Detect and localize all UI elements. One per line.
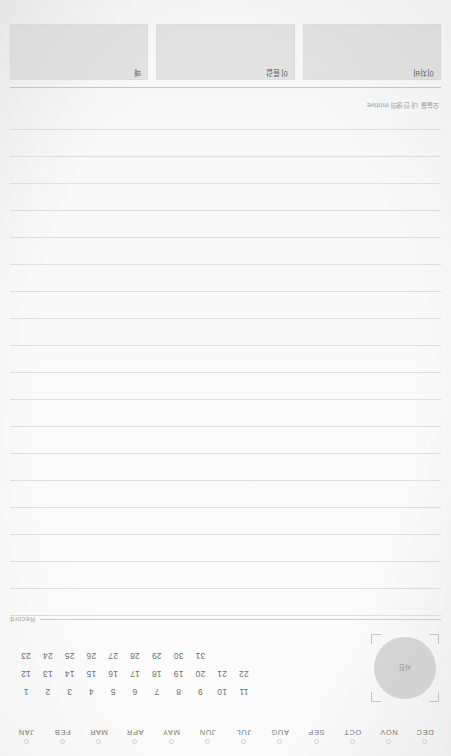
month-item-sep[interactable]: SEP bbox=[298, 729, 334, 745]
month-label: OCT bbox=[344, 729, 362, 737]
day-number[interactable]: 24 bbox=[37, 652, 59, 661]
note-lines-area[interactable] bbox=[10, 121, 441, 616]
record-rule bbox=[40, 620, 441, 621]
month-dot-icon bbox=[169, 739, 174, 744]
photo-corner-bottom-right bbox=[371, 634, 381, 644]
header-box-row: 이차비 이름값 왜 bbox=[10, 24, 441, 80]
day-number[interactable]: 7 bbox=[146, 688, 168, 697]
month-item-jun[interactable]: JUN bbox=[189, 729, 225, 745]
photo-corner-top-left bbox=[429, 692, 439, 702]
photo-slot[interactable]: 사진 bbox=[371, 634, 439, 702]
page-tagline: 오늘을 내 인생의 motive bbox=[367, 101, 439, 111]
note-line bbox=[10, 507, 441, 508]
day-number[interactable]: 22 bbox=[233, 670, 255, 679]
note-line bbox=[10, 534, 441, 535]
month-label: JUN bbox=[199, 729, 215, 737]
day-number[interactable]: 15 bbox=[80, 670, 102, 679]
note-line bbox=[10, 183, 441, 184]
photo-placeholder-circle[interactable]: 사진 bbox=[374, 637, 436, 699]
note-line bbox=[10, 399, 441, 400]
day-number[interactable]: 4 bbox=[80, 688, 102, 697]
month-item-mar[interactable]: MAR bbox=[81, 729, 117, 745]
day-number[interactable]: 23 bbox=[15, 652, 37, 661]
month-item-may[interactable]: MAY bbox=[153, 729, 189, 745]
month-dot-icon bbox=[350, 739, 355, 744]
day-number[interactable]: 9 bbox=[189, 688, 211, 697]
photo-label: 사진 bbox=[399, 663, 412, 673]
day-number[interactable]: 5 bbox=[102, 688, 124, 697]
day-number[interactable]: 30 bbox=[168, 652, 190, 661]
month-label: MAR bbox=[89, 729, 107, 737]
header-box-2[interactable]: 이름값 bbox=[156, 24, 294, 80]
month-item-dec[interactable]: DEC bbox=[407, 729, 443, 745]
month-item-jan[interactable]: JAN bbox=[8, 729, 44, 745]
day-number[interactable]: 8 bbox=[168, 688, 190, 697]
day-number[interactable]: 17 bbox=[124, 670, 146, 679]
month-label: DEC bbox=[416, 729, 434, 737]
month-item-apr[interactable]: APR bbox=[117, 729, 153, 745]
header-divider-rule bbox=[10, 87, 441, 88]
day-number[interactable]: 21 bbox=[211, 670, 233, 679]
header-box-3-label: 왜 bbox=[134, 69, 141, 77]
header-box-2-label: 이름값 bbox=[266, 69, 288, 77]
planner-page: 이차비 이름값 왜 오늘을 내 인생의 motive Record 사진 bbox=[0, 0, 451, 756]
note-line bbox=[10, 345, 441, 346]
month-label: AUG bbox=[271, 729, 289, 737]
day-number[interactable]: 14 bbox=[59, 670, 81, 679]
day-number[interactable]: 19 bbox=[168, 670, 190, 679]
month-dot-icon bbox=[314, 739, 319, 744]
day-number[interactable]: 3 bbox=[59, 688, 81, 697]
month-dot-icon bbox=[241, 739, 246, 744]
note-line bbox=[10, 210, 441, 211]
month-dot-icon bbox=[386, 739, 391, 744]
day-number[interactable]: 1 bbox=[15, 688, 37, 697]
day-number[interactable]: 16 bbox=[102, 670, 124, 679]
day-number[interactable]: 26 bbox=[80, 652, 102, 661]
month-dot-icon bbox=[96, 739, 101, 744]
note-line bbox=[10, 318, 441, 319]
note-line bbox=[10, 156, 441, 157]
month-selector-strip: JANFEBMARAPRMAYJUNJULAUGSEPOCTNOVDEC bbox=[8, 729, 443, 745]
day-number[interactable]: 2 bbox=[37, 688, 59, 697]
note-line bbox=[10, 237, 441, 238]
day-number[interactable]: 25 bbox=[59, 652, 81, 661]
header-box-3[interactable]: 왜 bbox=[10, 24, 148, 80]
month-item-jul[interactable]: JUL bbox=[226, 729, 262, 745]
month-label: FEB bbox=[54, 729, 70, 737]
day-number[interactable]: 27 bbox=[102, 652, 124, 661]
note-line bbox=[10, 426, 441, 427]
header-box-1-label: 이차비 bbox=[412, 69, 434, 77]
month-item-oct[interactable]: OCT bbox=[334, 729, 370, 745]
day-number[interactable]: 20 bbox=[189, 670, 211, 679]
note-line bbox=[10, 561, 441, 562]
day-number-row: 1234567891011 bbox=[15, 683, 255, 701]
month-item-feb[interactable]: FEB bbox=[44, 729, 80, 745]
day-number[interactable]: 28 bbox=[124, 652, 146, 661]
month-dot-icon bbox=[422, 739, 427, 744]
record-divider: Record bbox=[10, 615, 441, 625]
day-number[interactable]: 29 bbox=[146, 652, 168, 661]
day-number[interactable]: 11 bbox=[233, 688, 255, 697]
month-dot-icon bbox=[132, 739, 137, 744]
note-line bbox=[10, 588, 441, 589]
day-number[interactable]: 12 bbox=[15, 670, 37, 679]
note-line bbox=[10, 129, 441, 130]
month-label: APR bbox=[126, 729, 143, 737]
day-number[interactable]: 10 bbox=[211, 688, 233, 697]
day-number[interactable]: 31 bbox=[189, 652, 211, 661]
month-item-aug[interactable]: AUG bbox=[262, 729, 298, 745]
record-label: Record bbox=[10, 617, 35, 624]
note-line bbox=[10, 291, 441, 292]
month-dot-icon bbox=[24, 739, 29, 744]
day-number[interactable]: 18 bbox=[146, 670, 168, 679]
month-dot-icon bbox=[205, 739, 210, 744]
day-number[interactable]: 6 bbox=[124, 688, 146, 697]
month-dot-icon bbox=[277, 739, 282, 744]
note-line bbox=[10, 453, 441, 454]
day-number[interactable]: 13 bbox=[37, 670, 59, 679]
header-box-1[interactable]: 이차비 bbox=[303, 24, 441, 80]
note-line bbox=[10, 372, 441, 373]
day-number-row: 232425262728293031 bbox=[15, 647, 255, 665]
month-item-nov[interactable]: NOV bbox=[371, 729, 407, 745]
month-label: JAN bbox=[18, 729, 34, 737]
